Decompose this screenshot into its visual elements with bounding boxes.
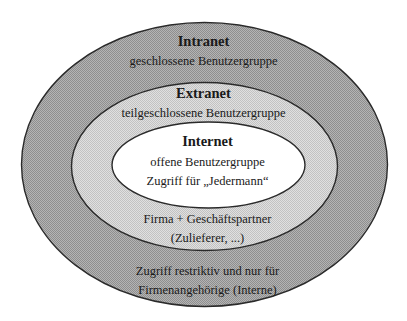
- intranet-note-line2: Firmenangehörige (Interne): [4, 284, 407, 297]
- internet-access-note: Zugriff für „Jedermann“: [4, 175, 407, 188]
- intranet-subtitle: geschlossene Benutzergruppe: [0, 55, 407, 68]
- extranet-subtitle: teilgeschlossene Benutzergruppe: [0, 107, 407, 120]
- internet-title: Internet: [4, 134, 407, 149]
- extranet-note-line1: Firma + Geschäftspartner: [4, 213, 407, 226]
- internet-subtitle: offene Benutzergruppe: [4, 156, 407, 169]
- extranet-title: Extranet: [0, 86, 407, 101]
- intranet-title: Intranet: [0, 34, 407, 49]
- extranet-note-line2: (Zulieferer, ...): [4, 232, 407, 245]
- intranet-note-line1: Zugriff restriktiv und nur für: [4, 265, 407, 278]
